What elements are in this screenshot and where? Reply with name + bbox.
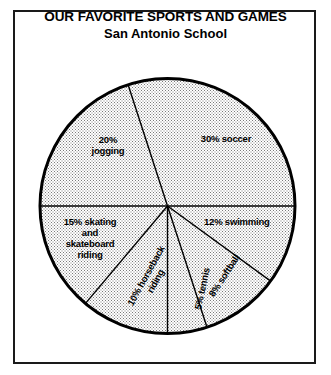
chart-page: OUR FAVORITE SPORTS AND GAMES San Antoni… (0, 0, 331, 375)
page-title: OUR FAVORITE SPORTS AND GAMES (0, 8, 331, 25)
chart-frame-border (13, 10, 316, 364)
chart-header: OUR FAVORITE SPORTS AND GAMES San Antoni… (0, 8, 331, 42)
page-subtitle: San Antonio School (0, 25, 331, 42)
